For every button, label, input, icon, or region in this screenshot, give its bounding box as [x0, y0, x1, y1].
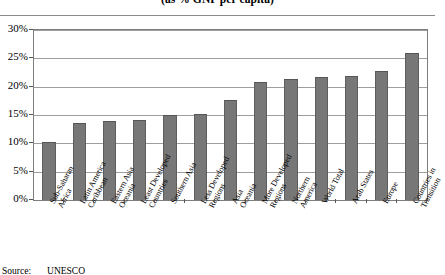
y-axis-tick-label: 20%	[0, 80, 28, 91]
x-axis-tick-mark	[426, 199, 427, 203]
bar	[345, 76, 358, 200]
bar	[254, 82, 267, 200]
chart-title: (as % GNP per capita)	[0, 0, 435, 5]
x-axis-tick-mark	[124, 199, 125, 203]
source-label: Source:	[2, 266, 31, 275]
y-axis-tick-label: 0%	[0, 193, 28, 204]
x-axis-tick-mark	[93, 199, 94, 203]
x-axis-tick-mark	[335, 199, 336, 203]
gridline	[34, 87, 427, 88]
x-axis-tick-mark	[275, 199, 276, 203]
source-value: UNESCO	[47, 266, 85, 275]
x-axis-tick-mark	[305, 199, 306, 203]
x-axis-tick-mark	[245, 199, 246, 203]
bar	[405, 53, 418, 200]
x-axis-tick-mark	[214, 199, 215, 203]
bar	[375, 71, 388, 200]
x-axis-labels: Sub-SaharanAfricaLatin AmericaCaribbeanE…	[33, 201, 428, 275]
source-note: Source:UNESCO	[2, 266, 85, 275]
x-axis-tick-mark	[396, 199, 397, 203]
x-axis-tick-mark	[366, 199, 367, 203]
gridline	[34, 58, 427, 59]
x-axis-tick-mark	[184, 199, 185, 203]
y-axis-tick-label: 25%	[0, 51, 28, 62]
y-axis-tick-label: 30%	[0, 23, 28, 34]
title-divider	[0, 15, 435, 16]
x-axis-tick-mark	[63, 199, 64, 203]
x-axis-tick-mark	[154, 199, 155, 203]
y-axis-tick-label: 10%	[0, 136, 28, 147]
gridline	[34, 30, 427, 31]
y-axis-tick-label: 5%	[0, 165, 28, 176]
y-axis-tick-label: 15%	[0, 108, 28, 119]
